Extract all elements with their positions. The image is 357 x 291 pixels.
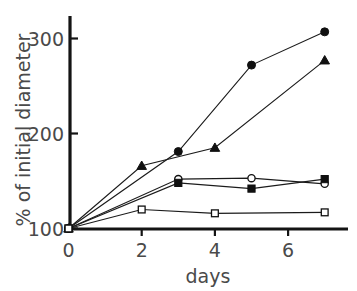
series-markers-filled-triangle <box>64 56 330 233</box>
x-axis-tick-labels: 0246 <box>62 239 294 261</box>
x-tick-label: 0 <box>62 239 74 261</box>
chart-axes <box>68 16 348 229</box>
series-line-filled-circle <box>69 32 325 229</box>
data-point-filled-square <box>321 176 328 183</box>
series-filled-circle <box>69 32 325 229</box>
data-point-open-square <box>138 206 145 213</box>
series-line-filled-triangle <box>69 60 325 228</box>
series-filled-square <box>69 179 325 228</box>
series-line-filled-square <box>69 179 325 228</box>
chart-figure: 100200300 0246 % of initial diameter day… <box>0 0 357 291</box>
data-point-open-square <box>321 209 328 216</box>
series-open-circle <box>69 178 325 228</box>
data-point-filled-circle <box>248 61 256 69</box>
data-point-open-circle <box>248 175 255 182</box>
chart-series-layer <box>64 28 330 233</box>
data-point-filled-circle <box>321 28 329 36</box>
data-point-filled-square <box>248 185 255 192</box>
x-tick-label: 6 <box>282 239 294 261</box>
y-axis-title: % of initial diameter <box>12 33 34 226</box>
data-point-open-square <box>212 210 219 217</box>
x-axis-title: days <box>186 265 231 287</box>
x-tick-label: 4 <box>209 239 221 261</box>
data-point-filled-circle <box>174 148 182 156</box>
data-point-open-square <box>65 225 72 232</box>
series-filled-triangle <box>69 60 325 228</box>
data-point-filled-triangle <box>320 56 330 64</box>
line-chart-plot: 100200300 0246 % of initial diameter day… <box>0 0 357 291</box>
data-point-filled-square <box>175 179 182 186</box>
series-line-open-circle <box>69 178 325 228</box>
data-point-filled-triangle <box>210 143 220 151</box>
x-tick-label: 2 <box>136 239 148 261</box>
